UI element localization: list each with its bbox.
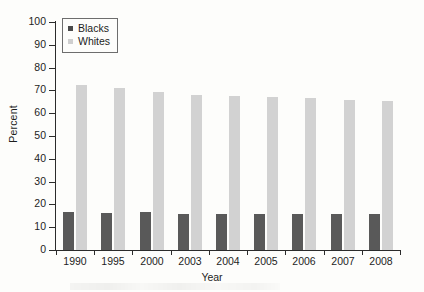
x-axis-tick [324, 251, 325, 255]
bar-whites-1990 [76, 85, 87, 250]
bar-whites-2007 [344, 100, 355, 250]
bar-blacks-2007 [331, 214, 342, 250]
x-axis-tick [209, 251, 210, 255]
plot-area [56, 22, 400, 250]
y-axis-title: Percent [7, 89, 19, 159]
bar-whites-2008 [382, 101, 393, 250]
bar-whites-2000 [153, 92, 164, 250]
x-axis-title: Year [0, 271, 424, 283]
bar-blacks-1990 [63, 212, 74, 250]
x-axis-tick [94, 251, 95, 255]
x-axis-tick [247, 251, 248, 255]
scan-bleed-artifact [70, 283, 280, 290]
x-axis-tick [285, 251, 286, 255]
x-axis-tick [171, 251, 172, 255]
chart-legend: Blacks Whites [62, 18, 118, 53]
y-axis-tick-label: 30 [18, 176, 46, 187]
bar-blacks-2005 [254, 214, 265, 250]
x-axis-tick-label: 2006 [282, 256, 326, 267]
legend-label-whites: Whites [78, 36, 110, 47]
y-axis-tick [49, 250, 55, 251]
y-axis-tick-label: 90 [18, 39, 46, 50]
y-axis-tick-label: 50 [18, 130, 46, 141]
x-axis-tick [362, 251, 363, 255]
y-axis-tick-label: 70 [18, 84, 46, 95]
y-axis-tick-label: 60 [18, 107, 46, 118]
legend-swatch-whites-icon [68, 39, 73, 44]
y-axis-tick-label: 40 [18, 153, 46, 164]
y-axis-tick [49, 45, 55, 46]
y-axis-tick-label: 80 [18, 62, 46, 73]
bar-blacks-2000 [140, 212, 151, 250]
x-axis-tick-label: 2008 [359, 256, 403, 267]
y-axis-tick [49, 204, 55, 205]
bar-blacks-1995 [101, 213, 112, 250]
y-axis-tick [49, 22, 55, 23]
legend-item-whites: Whites [68, 35, 110, 48]
y-axis-tick [49, 227, 55, 228]
bar-whites-2005 [267, 97, 278, 250]
y-axis-tick [49, 113, 55, 114]
x-axis-tick [400, 251, 401, 255]
y-axis-tick-label: 10 [18, 221, 46, 232]
x-axis-tick [132, 251, 133, 255]
y-axis-tick [49, 182, 55, 183]
y-axis-tick [49, 68, 55, 69]
legend-swatch-blacks-icon [68, 26, 73, 31]
x-axis-line [55, 250, 401, 251]
bar-whites-2006 [305, 98, 316, 250]
legend-item-blacks: Blacks [68, 22, 110, 35]
bar-whites-2004 [229, 96, 240, 250]
y-axis-tick-label: 100 [18, 16, 46, 27]
bar-blacks-2008 [369, 214, 380, 250]
legend-label-blacks: Blacks [78, 23, 109, 34]
y-axis-tick [49, 90, 55, 91]
x-axis-tick-label: 1995 [91, 256, 135, 267]
chart-page: 0102030405060708090100 Percent 199019952… [0, 0, 424, 292]
y-axis-tick-label: 20 [18, 198, 46, 209]
bar-whites-1995 [114, 88, 125, 250]
bar-whites-2003 [191, 95, 202, 250]
bar-blacks-2003 [178, 214, 189, 250]
y-axis-tick-label: 0 [18, 244, 46, 255]
y-axis-tick [49, 136, 55, 137]
x-axis-tick [56, 251, 57, 255]
y-axis-tick [49, 159, 55, 160]
bar-blacks-2004 [216, 214, 227, 250]
bar-blacks-2006 [292, 214, 303, 250]
